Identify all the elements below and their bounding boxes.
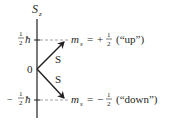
spin-up-label: m s = + 1 2 (“up”) [71, 31, 144, 48]
spin-down-vector-label: S [55, 73, 61, 85]
svg-text:1: 1 [107, 31, 111, 39]
axis-label-subscript: z [38, 10, 42, 18]
svg-text:1: 1 [107, 91, 111, 99]
svg-text:+: + [97, 33, 103, 45]
svg-text:2: 2 [107, 100, 111, 108]
lower-tick-label: − 1 2 ħ [7, 90, 31, 107]
svg-text:s: s [80, 40, 83, 48]
svg-text:1: 1 [19, 90, 23, 98]
svg-text:m: m [71, 93, 79, 105]
axis-label: S [32, 2, 38, 16]
svg-text:(“up”): (“up”) [116, 33, 144, 46]
svg-text:=: = [87, 93, 93, 105]
svg-text:−: − [7, 94, 13, 105]
spin-up-vector-label: S [55, 53, 61, 65]
svg-text:(“down”): (“down”) [116, 93, 158, 106]
svg-text:2: 2 [19, 99, 23, 107]
svg-text:ħ: ħ [25, 33, 31, 45]
svg-text:1: 1 [19, 30, 23, 38]
svg-text:ħ: ħ [25, 93, 31, 105]
svg-text:m: m [71, 33, 79, 45]
upper-tick-label: 1 2 ħ [18, 30, 31, 47]
svg-text:2: 2 [19, 39, 23, 47]
svg-text:2: 2 [107, 40, 111, 48]
origin-label: 0 [27, 63, 33, 75]
spin-down-label: m s = − 1 2 (“down”) [71, 91, 158, 108]
svg-text:−: − [97, 93, 103, 105]
svg-text:=: = [87, 33, 93, 45]
spin-diagram: S z 1 2 ħ − 1 2 ħ 0 S S m s = + 1 2 (“up… [0, 0, 177, 122]
svg-text:s: s [80, 100, 83, 108]
